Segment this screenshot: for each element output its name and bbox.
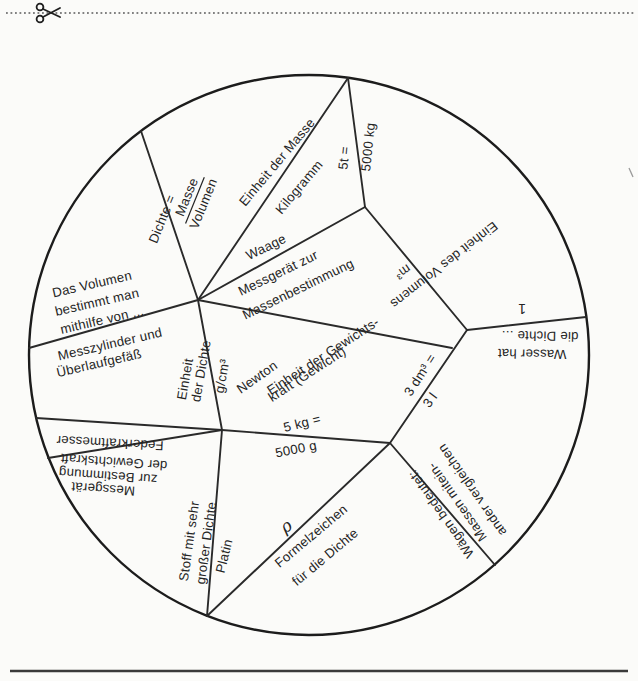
divider-line [390, 330, 467, 443]
label-waage: Waage [244, 231, 289, 263]
label-die-dichte: die Dichte ... [501, 328, 578, 344]
label-5kg: 5 kg = [282, 411, 322, 435]
label-wasser-hat: Wasser hat [497, 346, 566, 362]
divider-line [198, 207, 365, 300]
divider-line [207, 443, 390, 616]
label-masse-volumen-fraction: Masse Volumen [170, 170, 220, 232]
label-5t: 5t = [335, 146, 352, 171]
learning-wheel-diagram: Dichte = Masse Volumen Einheit der Masse… [0, 0, 638, 681]
worksheet-page: Dichte = Masse Volumen Einheit der Masse… [0, 0, 638, 681]
label-5000kg: 5000 kg [358, 122, 378, 172]
label-einheit-gewichtskraft-2: kraft (Gewicht) [265, 343, 348, 404]
label-federkraftmesser: Federkraftmesser [56, 433, 164, 454]
divider-line [198, 300, 452, 348]
label-m3: m³ [392, 261, 414, 283]
label-3dm3: 3 dm³ = [401, 351, 439, 398]
label-dichte-gleich: Dichte = [146, 193, 179, 246]
label-einheit-der-masse: Einheit der Masse [236, 115, 318, 209]
label-eins: 1 [518, 301, 526, 317]
scan-speck [629, 168, 633, 177]
divider-line [36, 418, 222, 430]
label-5000g: 5000 g [274, 438, 318, 461]
label-3l: 3 l [420, 390, 441, 411]
label-platin: Platin [213, 537, 236, 574]
label-g-cm3: g/cm³ [212, 357, 233, 394]
divider-line [467, 317, 586, 330]
